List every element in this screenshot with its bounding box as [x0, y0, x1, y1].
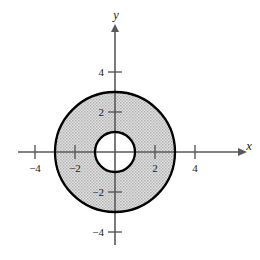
y-tick-label--2: −2	[92, 186, 104, 198]
y-tick-label-4: 4	[99, 66, 105, 78]
x-tick-label--2: −2	[69, 162, 81, 174]
x-tick-label-4: 4	[192, 162, 198, 174]
x-tick-label-2: 2	[152, 162, 158, 174]
figure-root: −4 −2 2 4 4 2 −2 −4 x y	[0, 0, 260, 260]
x-tick-label--4: −4	[29, 162, 41, 174]
y-tick-label-2: 2	[99, 106, 105, 118]
annulus-plot: −4 −2 2 4 4 2 −2 −4 x y	[0, 0, 260, 260]
shaded-annulus-region	[0, 0, 260, 260]
y-axis-label: y	[111, 8, 119, 22]
annulus-fill	[0, 0, 260, 260]
x-axis-label: x	[245, 139, 252, 153]
y-tick-label--4: −4	[92, 226, 104, 238]
